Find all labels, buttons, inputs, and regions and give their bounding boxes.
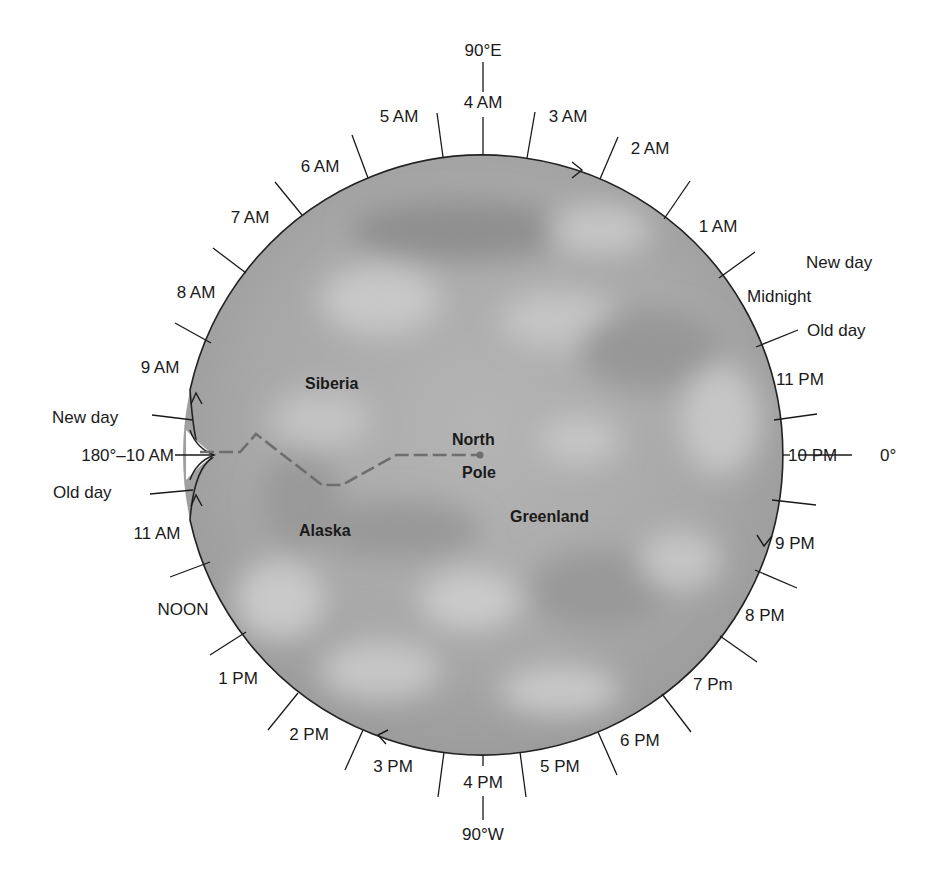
hour-label-10pm: 10 PM	[788, 446, 837, 465]
time-zone-globe-diagram: 90°E 90°W 0° 4 AM 3 AM 2 AM 1 AM Midnigh…	[0, 0, 949, 869]
hour-label-3am: 3 AM	[549, 107, 588, 126]
region-label-siberia: Siberia	[305, 375, 358, 392]
hour-label-5am: 5 AM	[380, 107, 419, 126]
meridian-90w-label: 90°W	[462, 825, 504, 844]
hour-label-4pm: 4 PM	[463, 773, 503, 792]
region-label-greenland: Greenland	[510, 508, 589, 525]
hour-label-11pm: 11 PM	[776, 370, 824, 389]
hour-label-11am: 11 AM	[134, 524, 181, 543]
region-label-alaska: Alaska	[299, 522, 351, 539]
hour-label-9am: 9 AM	[141, 358, 180, 377]
hour-label-8am: 8 AM	[177, 283, 216, 302]
hour-label-6am: 6 AM	[301, 157, 340, 176]
hour-label-4am: 4 AM	[464, 93, 503, 112]
meridian-0-label: 0°	[880, 446, 896, 465]
region-label-pole: Pole	[462, 464, 496, 481]
region-label-north: North	[452, 431, 495, 448]
hour-label-6pm: 6 PM	[620, 731, 660, 750]
hour-label-1pm: 1 PM	[218, 669, 258, 688]
right-old-day-label: Old day	[807, 321, 866, 340]
hour-label-9pm: 9 PM	[775, 534, 815, 553]
hour-label-2pm: 2 PM	[289, 725, 329, 744]
hour-label-1am: 1 AM	[699, 217, 738, 236]
hour-label-2am: 2 AM	[631, 139, 670, 158]
hour-label-noon: NOON	[158, 600, 209, 619]
north-pole-dot	[477, 452, 484, 459]
hour-label-midnight: Midnight	[747, 287, 812, 306]
meridian-90e-label: 90°E	[464, 41, 501, 60]
hour-label-3pm: 3 PM	[373, 757, 413, 776]
hour-label-10am: 180°–10 AM	[81, 446, 174, 465]
hour-label-7am: 7 AM	[231, 208, 270, 227]
right-new-day-label: New day	[806, 253, 873, 272]
left-new-day-label: New day	[52, 408, 119, 427]
hour-label-8pm: 8 PM	[745, 606, 785, 625]
left-old-day-label: Old day	[53, 483, 112, 502]
hour-label-5pm: 5 PM	[540, 757, 580, 776]
hour-label-7pm: 7 Pm	[693, 675, 733, 694]
